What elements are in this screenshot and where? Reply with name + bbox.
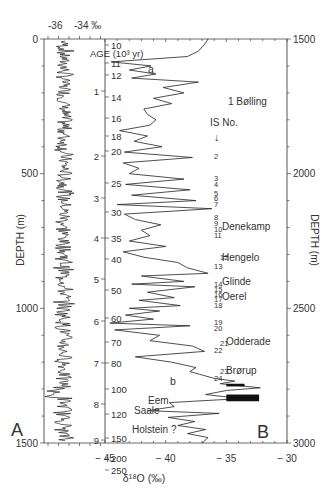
annotation: Oerel [222,291,246,302]
annotation: 1 Bølling [228,96,267,107]
depth-tick-label: 1000 [16,303,39,314]
x-tick-label: − 30 [277,453,297,464]
age-tick-label: 14 [111,92,122,103]
x-tick-label: − 35 [216,453,236,464]
age-tick-label: 35 [111,233,122,244]
annotation: b [170,375,176,387]
annotation: a [148,63,154,75]
age-tick-label: 20 [111,146,122,157]
km-tick-label: 5 [94,274,99,285]
top-scale-label-a: -36 [48,20,63,31]
depth-tick-label: 2500 [293,303,316,314]
interstadial-number: 22 [214,346,222,355]
age-tick-label: 50 [111,285,122,296]
interstadial-number: 18 [214,301,222,310]
top-scale-label-b: -34 ‰ [74,20,101,31]
depth-tick-label: 0 [32,34,38,45]
annotation: IS No. [210,117,238,128]
age-tick-label: 30 [111,207,122,218]
depth-tick-label: 500 [21,168,38,179]
depth-tick-label: 3000 [293,438,316,449]
km-tick-label: 3 [94,193,99,204]
age-tick-label: 100 [111,384,127,395]
interstadial-number: 11 [214,231,222,240]
km-tick-label: 2 [94,151,99,162]
age-tick-label: 11 [111,58,121,69]
age-tick-label: 80 [111,358,122,369]
eem-block [226,395,259,402]
age-tick-label: 12 [111,70,122,81]
x-axis-title: δ¹⁸O (‰) [123,472,165,484]
age-tick-label: 250 [111,465,127,476]
depth-axis-title-right: DEPTH (m) [309,214,320,266]
km-tick-label: 7 [94,358,99,369]
annotation: Odderade [226,336,271,347]
km-tick-label: 1 [94,86,99,97]
annotation: Denekamp [222,221,271,232]
annotation: ↓ [214,131,219,143]
panel-a-label: A [11,420,23,440]
age-tick-label: 25 [111,178,122,189]
km-tick-label: 9 [94,435,99,446]
interstadial-number: 13 [214,262,222,271]
ice-core-chart: 050010001500-36-34 ‰DEPTH (m)A− 45− 40− … [0,0,330,498]
age-tick-label: 120 [111,409,127,420]
km-tick-label: 8 [94,399,99,410]
age-tick-label: 18 [111,131,122,142]
age-tick-label: 150 [111,433,127,444]
x-tick-label: − 40 [156,453,176,464]
age-tick-label: 16 [111,113,122,124]
panel-b-label: B [257,422,269,442]
age-tick-label: 70 [111,337,122,348]
annotation: Holstein ? [132,424,177,435]
depth-tick-label: 2000 [293,168,316,179]
interstadial-number: 2 [214,152,218,161]
age-tick-label: 200 [111,453,127,464]
annotation: Brørup [226,365,257,376]
age-tick-label: 60 [111,313,122,324]
age-axis-title: AGE (10³ yr) [90,48,143,59]
interstadial-number: 12 [220,253,228,262]
annotation: Saale [134,405,160,416]
panel-a-curve [45,41,75,441]
annotation: Glinde [222,276,251,287]
km-tick-label: 4 [94,233,99,244]
depth-axis-title-left: DEPTH (m) [15,214,26,266]
interstadial-number: 7 [214,200,218,209]
interstadial-number: 24 [214,374,222,383]
km-tick-label: 6 [94,316,99,327]
interstadial-number: 4 [214,180,218,189]
depth-tick-label: 1500 [293,34,316,45]
age-tick-label: 40 [111,254,122,265]
interstadial-number: 20 [214,324,222,333]
eem-block [226,384,244,387]
